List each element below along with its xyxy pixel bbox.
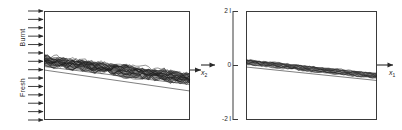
- turbulent-flame-canvas: [0, 0, 201, 130]
- laminar-flame-canvas: [201, 0, 402, 130]
- side-label-fresh: Fresh: [19, 70, 26, 106]
- inflow-arrow-head: [39, 59, 44, 63]
- outflow-arrow: [190, 67, 201, 72]
- x1-axis-arrow: [377, 63, 393, 68]
- inflow-arrow-group: [28, 9, 44, 122]
- inflow-arrow-head: [39, 68, 44, 72]
- turbulent-flame-panel: Burnt Fresh: [0, 0, 201, 130]
- y-tick-label-bottom: -2 l: [203, 115, 231, 122]
- x2-axis-label-subscript: 2: [205, 72, 208, 78]
- inflow-arrow-head: [39, 42, 44, 46]
- inflow-arrow-head: [39, 51, 44, 55]
- inflow-arrow-head: [39, 84, 44, 88]
- y-axis-spine: [233, 11, 238, 120]
- laminar-flame-panel: 2 l 0 -2 l x2 x1: [201, 0, 402, 130]
- inflow-arrow-head: [39, 26, 44, 30]
- x1-axis-label-subscript: 1: [393, 72, 396, 78]
- side-label-burnt: Burnt: [19, 20, 26, 56]
- inflow-arrow-head: [39, 93, 44, 97]
- inflow-arrow-head: [39, 110, 44, 114]
- inflow-arrow-head: [39, 17, 44, 21]
- inflow-arrow-head: [39, 9, 44, 13]
- flame-domain-figure: Burnt Fresh 2 l 0 -2 l x2: [0, 0, 402, 130]
- inflow-arrow-head: [39, 34, 44, 38]
- y-tick-label-top: 2 l: [203, 7, 231, 14]
- x2-axis-label: x2: [201, 69, 207, 78]
- inflow-arrow-head: [39, 118, 44, 122]
- inflow-arrow-head: [39, 76, 44, 80]
- inflow-arrow-head: [39, 101, 44, 105]
- x1-axis-label: x1: [389, 69, 395, 78]
- y-tick-label-zero: 0: [203, 61, 231, 68]
